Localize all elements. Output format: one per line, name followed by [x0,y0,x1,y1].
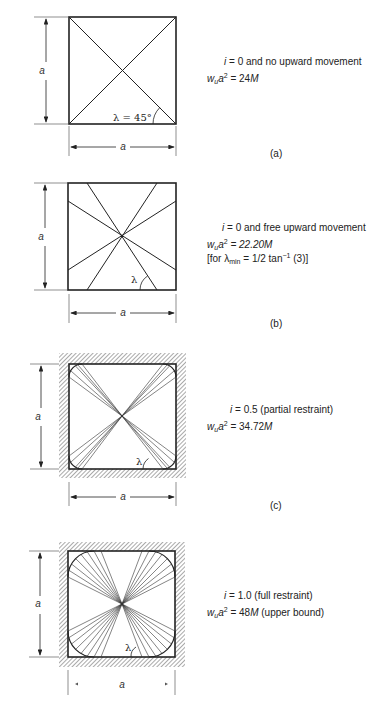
angle-arc [140,276,148,290]
angle-label: λ [125,642,132,653]
condition-text: i = 0 and no upward movement [224,56,362,68]
dimension-vertical [29,551,59,657]
load-formula: wua2 = 24M [207,70,258,88]
dim-label-vertical: a [35,598,41,609]
panel-b [34,183,176,323]
condition-text: i = 1.0 (full restraint) [224,590,313,602]
caption-a: (a) [270,148,282,159]
yield-fans [68,551,175,657]
caption-b: (b) [270,318,282,329]
dim-label-vertical: a [39,65,45,76]
panel-c [30,353,186,506]
dim-label-horizontal: a [120,141,126,152]
yield-fans [69,364,176,469]
dim-label-vertical: a [38,231,44,242]
caption-c: (c) [270,500,282,511]
load-formula: wua2 = 48M (upper bound) [207,604,324,622]
dim-label-horizontal: a [120,491,126,502]
dim-label-horizontal: a [119,679,125,690]
angle-arc [143,459,149,470]
dim-label-horizontal: a [120,307,126,318]
angle-arc [131,647,136,657]
condition-text: i = 0 and free upward movement [222,222,366,234]
panel-d [29,542,185,695]
load-formula: wua2 = 34.72M [207,418,272,436]
condition-text: i = 0.5 (partial restraint) [230,404,333,416]
lambda-note: [for λmin = 1/2 tan−1 (3)] [207,250,308,268]
panel-a [34,17,176,156]
dim-label-vertical: a [35,411,41,422]
angle-arc [153,108,160,124]
yield-line-diagram: a a λ = 45° a a λ a a λ a a λ [0,0,383,710]
angle-label: λ [136,456,143,467]
angle-label: λ [131,274,138,285]
angle-label: λ = 45° [113,112,152,123]
